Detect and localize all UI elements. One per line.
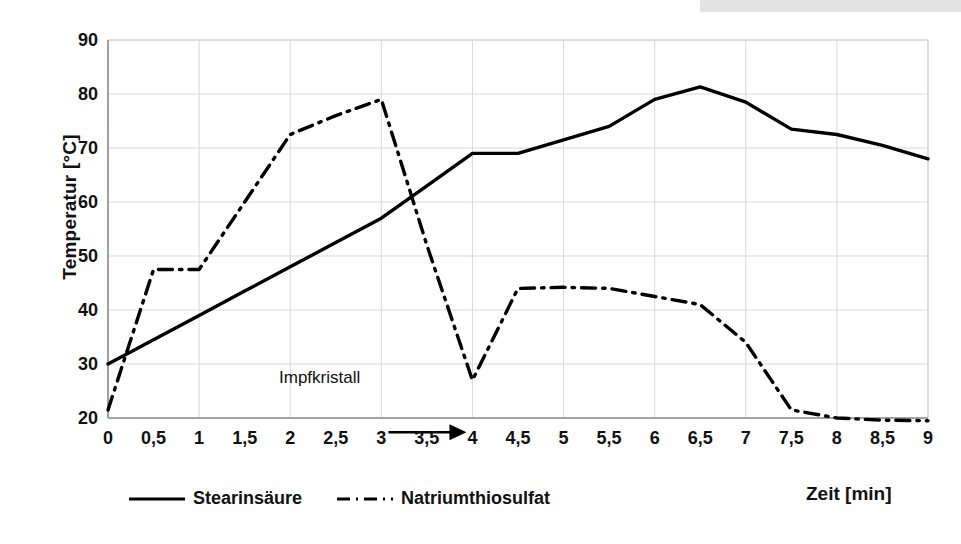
- temperature-time-chart: Temperatur [°C] Zeit [min] 2030405060708…: [0, 0, 961, 544]
- legend-label-natriumthiosulfat: Natriumthiosulfat: [401, 488, 550, 509]
- impfkristall-annotation-label: Impfkristall: [279, 368, 360, 388]
- y-tick-60: 60: [52, 193, 98, 211]
- series-lines: [108, 87, 928, 421]
- chart-plot-area: [0, 0, 961, 544]
- chart-legend: Stearinsäure Natriumthiosulfat: [128, 488, 550, 509]
- y-tick-40: 40: [52, 301, 98, 319]
- x-tick-9: 9: [898, 429, 958, 447]
- gridlines: [108, 40, 928, 418]
- legend-item-natriumthiosulfat: Natriumthiosulfat: [336, 488, 550, 509]
- y-tick-30: 30: [52, 355, 98, 373]
- plot-frame: [108, 40, 928, 418]
- y-tick-50: 50: [52, 247, 98, 265]
- legend-swatch-dashdot-line: [336, 492, 394, 506]
- legend-label-stearinsaeure: Stearinsäure: [193, 488, 302, 509]
- y-tick-70: 70: [52, 139, 98, 157]
- legend-item-stearinsaeure: Stearinsäure: [128, 488, 302, 509]
- y-tick-90: 90: [52, 31, 98, 49]
- y-tick-20: 20: [52, 409, 98, 427]
- legend-swatch-solid-line: [128, 492, 186, 506]
- y-tick-80: 80: [52, 85, 98, 103]
- x-axis-title: Zeit [min]: [806, 483, 892, 505]
